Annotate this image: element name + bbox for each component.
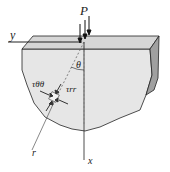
- theta-label: θ: [76, 60, 81, 70]
- diagram-canvas: [0, 0, 170, 172]
- x-axis-label: x: [88, 156, 92, 166]
- tau-theta-label: τθθ: [32, 80, 44, 89]
- y-axis-label: y: [10, 29, 15, 41]
- tau-rr-label: τrr: [66, 85, 76, 94]
- body-front-face: [22, 49, 152, 131]
- radial-label: r: [32, 148, 36, 158]
- load-label: P: [80, 4, 88, 17]
